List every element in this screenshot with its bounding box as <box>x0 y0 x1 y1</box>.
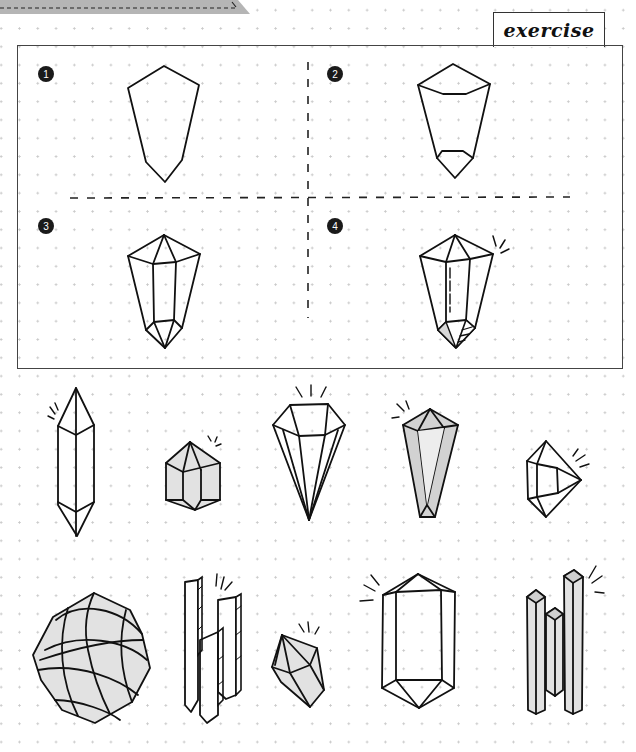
large-prism-crystal <box>360 574 455 708</box>
tall-bar-crystals <box>185 574 241 723</box>
faceted-ball-crystal <box>33 593 150 723</box>
triple-column-crystals <box>527 566 604 714</box>
side-gem <box>527 441 589 517</box>
step-3-crystal-columns <box>128 235 200 348</box>
step-2-crystal-facets <box>418 64 490 178</box>
step-1-crystal-outline <box>128 66 199 182</box>
shaded-cluster-crystal <box>166 436 221 510</box>
small-shaded-gem <box>272 622 324 707</box>
quadrant-dividers <box>70 62 570 318</box>
shaded-point-crystal <box>392 401 458 517</box>
crystal-drawings <box>0 0 636 752</box>
step-4-crystal-shaded <box>420 235 509 348</box>
double-terminated-crystal <box>48 388 94 536</box>
diamond-gem <box>273 385 345 520</box>
